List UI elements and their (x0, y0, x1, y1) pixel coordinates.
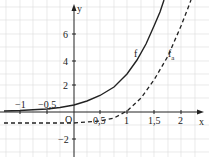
x-tick--1: −1 (15, 99, 26, 110)
curve-f-label: f (134, 48, 138, 59)
grid (0, 0, 209, 157)
curve-f-a (4, 0, 191, 123)
y-tick--2: −2 (58, 134, 69, 145)
x-tick-2: 2 (178, 115, 183, 126)
y-tick-6: 6 (63, 29, 68, 40)
graph-canvas: y x O f fa −1 −0,5 0,5 1 1,5 2 6 4 2 −2 (0, 0, 209, 157)
x-tick--0.5: −0,5 (38, 99, 56, 110)
function-graph: y x O f fa −1 −0,5 0,5 1 1,5 2 6 4 2 −2 (0, 0, 209, 157)
y-axis-label: y (77, 3, 82, 14)
x-tick-1: 1 (124, 115, 129, 126)
curve-f (4, 0, 164, 111)
axes (0, 4, 204, 157)
x-axis-label: x (199, 116, 204, 127)
origin-label: O (65, 114, 72, 125)
curve-fa-label: fa (168, 48, 175, 62)
x-tick-1.5: 1,5 (148, 115, 161, 126)
x-tick-0.5: 0,5 (93, 115, 106, 126)
y-tick-4: 4 (63, 56, 68, 67)
y-tick-2: 2 (63, 80, 68, 91)
